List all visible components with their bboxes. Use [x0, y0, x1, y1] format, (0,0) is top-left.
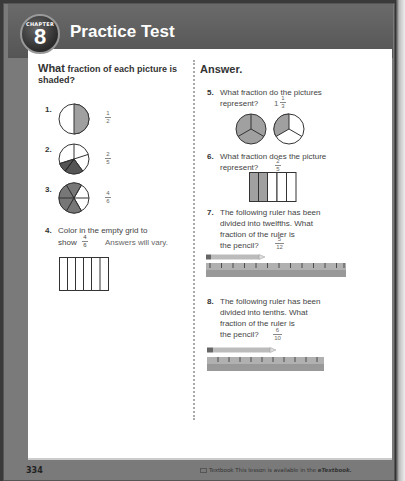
- q7-text-line4: the pencil?: [220, 240, 259, 251]
- column-divider: [193, 60, 195, 420]
- q5-answer-whole: 1: [274, 99, 278, 108]
- q5-circle-whole: [234, 112, 268, 146]
- q2-answer: 25: [105, 151, 111, 166]
- chapter-number: 8: [22, 27, 58, 47]
- q2-circle-figure: [57, 142, 91, 176]
- q4-number: 4.: [45, 226, 52, 235]
- q7-text-line2: divided into twelfths. What: [220, 218, 313, 229]
- q4-empty-grid[interactable]: [59, 257, 109, 291]
- q8-text-line1: The following ruler has been: [220, 296, 321, 307]
- left-heading: What fraction of each picture is shaded?: [38, 63, 188, 86]
- book-spine-edge: [395, 0, 405, 481]
- page-number: 334: [26, 466, 43, 475]
- q8-answer: 610: [273, 327, 282, 342]
- q4-fraction: 46: [82, 234, 88, 249]
- q8-ruler-tenths: [207, 357, 324, 371]
- etextbook-note: Textbook This lesson is available in the…: [200, 467, 352, 473]
- q6-number: 6.: [207, 152, 214, 161]
- q1-circle-figure: [57, 102, 91, 136]
- q8-text-line2: divided into tenths. What: [220, 307, 308, 318]
- q3-number: 3.: [45, 185, 52, 194]
- heading-what: What: [38, 62, 65, 74]
- q7-ruler-twelfths: [206, 263, 346, 277]
- chapter-badge: CHAPTER 8: [20, 14, 60, 54]
- q8-pencil-icon: [207, 347, 277, 353]
- q5-answer-fraction: 13: [280, 95, 286, 110]
- right-heading: Answer.: [200, 63, 242, 75]
- q8-text-line3: fraction of the ruler is: [220, 318, 295, 329]
- q1-answer: 12: [105, 110, 111, 125]
- page-title: Practice Test: [70, 22, 175, 42]
- note-prefix: Textbook: [209, 467, 234, 473]
- q5-number: 5.: [207, 88, 214, 97]
- note-text: This lesson is available in the: [235, 467, 316, 473]
- q6-answer: 25: [275, 158, 281, 173]
- q7-text-line1: The following ruler has been: [220, 207, 321, 218]
- q8-number: 8.: [207, 297, 214, 306]
- q7-number: 7.: [207, 208, 214, 217]
- q3-circle-figure: [57, 181, 91, 215]
- q5-text-line1: What fraction do the pictures: [220, 87, 322, 98]
- q3-answer: 46: [105, 190, 111, 205]
- q8-text-line4: the pencil?: [220, 329, 259, 340]
- q5-text-line2: represent?: [220, 98, 258, 109]
- q6-text-line1: What fraction does the picture: [220, 151, 326, 162]
- q4-answer: Answers will vary.: [105, 238, 168, 247]
- textbook-icon: [200, 468, 207, 473]
- q7-pencil-icon: [206, 254, 266, 260]
- q7-answer: 512: [275, 236, 284, 251]
- q4-text-line1: Color in the empty grid to: [58, 225, 147, 236]
- q1-number: 1.: [45, 105, 52, 114]
- q6-bar-figure: [249, 172, 297, 202]
- q2-number: 2.: [45, 145, 52, 154]
- q4-text-line2: show: [58, 237, 77, 248]
- etextbook-link[interactable]: eTextbook.: [318, 467, 352, 473]
- q5-circle-third: [272, 112, 306, 146]
